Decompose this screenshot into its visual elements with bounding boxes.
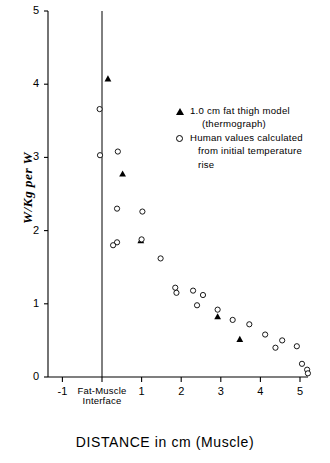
legend-entry-model: 1.0 cm fat thigh model <box>176 104 303 117</box>
legend-human-sublabel-1: from initial temperature <box>176 144 303 157</box>
y-tick-label: 0 <box>19 370 39 382</box>
x-tick-label: 4 <box>245 385 275 397</box>
legend-human-sublabel-2: rise <box>176 158 303 171</box>
data-point-circle <box>273 345 278 350</box>
legend-entry-human: Human values calculated <box>176 131 303 144</box>
data-point-circle <box>299 361 304 366</box>
x-tick-label: 3 <box>206 385 236 397</box>
data-point-circle <box>158 256 163 261</box>
interface-label-line2: Interface <box>57 396 147 407</box>
data-point-circle <box>247 322 252 327</box>
data-point-circle <box>173 285 178 290</box>
x-tick-label: 5 <box>285 385 315 397</box>
data-point-circle <box>194 303 199 308</box>
x-tick-label: 1 <box>127 385 157 397</box>
legend-model-label: 1.0 cm fat thigh model <box>190 105 290 116</box>
data-point-circle <box>190 288 195 293</box>
x-tick-label: 2 <box>166 385 196 397</box>
data-point-circle <box>97 106 102 111</box>
data-point-circle <box>305 371 310 376</box>
y-tick-label: 1 <box>19 297 39 309</box>
data-point-circle <box>294 344 299 349</box>
data-point-circle <box>230 317 235 322</box>
data-point-triangle <box>236 336 243 342</box>
data-point-circle <box>200 292 205 297</box>
data-point-triangle <box>214 313 221 319</box>
filled-triangle-icon <box>176 105 184 118</box>
y-tick-label: 5 <box>19 4 39 16</box>
data-point-circle <box>97 153 102 158</box>
open-circle-icon <box>176 132 183 145</box>
y-tick-label: 4 <box>19 77 39 89</box>
y-tick-label: 3 <box>19 150 39 162</box>
data-point-circle <box>140 209 145 214</box>
legend-model-sublabel: (thermograph) <box>176 117 303 130</box>
data-point-circle <box>115 149 120 154</box>
data-point-triangle <box>119 170 126 176</box>
y-tick-label: 2 <box>19 224 39 236</box>
legend-human-label: Human values calculated <box>190 132 303 143</box>
data-point-circle <box>139 237 144 242</box>
cut-off-caption <box>316 186 330 196</box>
data-point-circle <box>114 206 119 211</box>
data-point-circle <box>110 243 115 248</box>
data-point-circle <box>280 338 285 343</box>
data-point-circle <box>263 332 268 337</box>
chart-container: W/Kg per W DISTANCE in cm (Muscle) Fat-M… <box>0 0 330 463</box>
chart-legend: 1.0 cm fat thigh model (thermograph) Hum… <box>176 104 303 171</box>
data-point-circle <box>174 290 179 295</box>
x-tick-label: -1 <box>47 385 77 397</box>
data-point-triangle <box>105 75 112 81</box>
data-point-circle <box>215 307 220 312</box>
x-axis-label: DISTANCE in cm (Muscle) <box>0 434 330 450</box>
